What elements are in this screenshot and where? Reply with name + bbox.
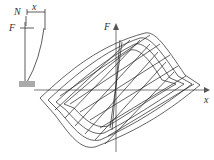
inset-column [20,9,45,82]
inset-label-n: N [14,7,21,17]
x-axis-label: x [204,95,208,105]
x-axis-arrow-icon [204,87,210,93]
fixed-base [19,81,35,87]
y-axis-arrow-icon [113,23,119,30]
y-axis-label: F [104,22,110,32]
inset-label-f: F [9,23,15,33]
inset-label-x: x [32,2,36,12]
